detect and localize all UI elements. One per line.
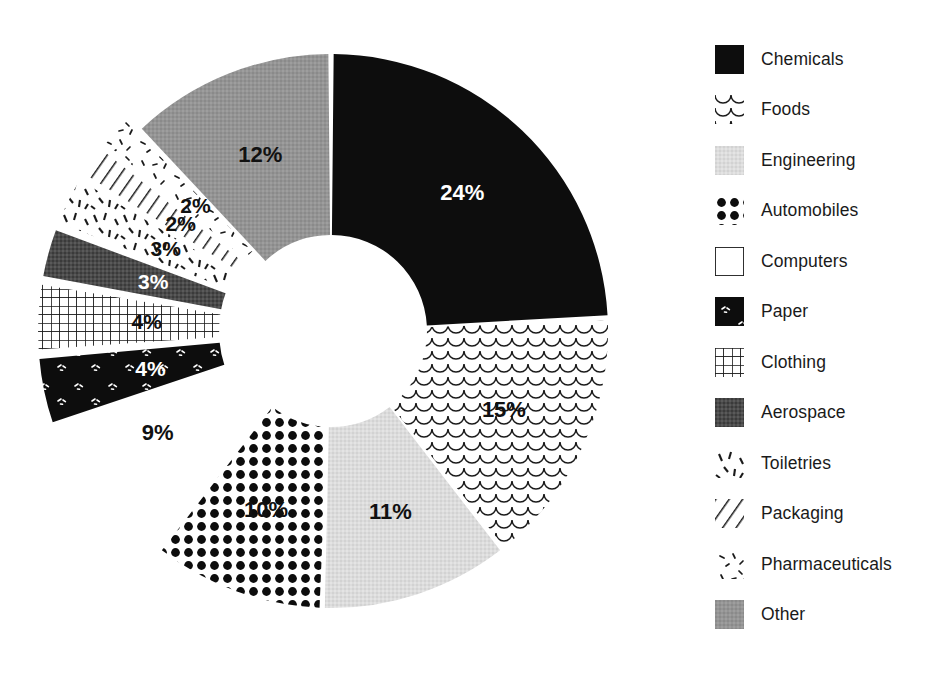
donut-chart: 24%15%11%10%9%4%4%3%3%2%2%12% [0, 0, 680, 681]
legend-item-paper[interactable]: Paper [705, 287, 927, 338]
legend-item-chemicals[interactable]: Chemicals [705, 34, 927, 85]
dots-swatch-icon [715, 196, 744, 225]
donut-chart-svg: 24%15%11%10%9%4%4%3%3%2%2%12% [0, 0, 680, 681]
legend-item-pharmaceuticals[interactable]: Pharmaceuticals [705, 539, 927, 590]
legend-item-label: Packaging [761, 503, 844, 524]
slice-label-computers: 9% [142, 420, 174, 445]
dark-gray-swatch-icon [715, 398, 744, 427]
legend-item-computers[interactable]: Computers [705, 236, 927, 287]
legend-item-label: Aerospace [761, 402, 846, 423]
black-flecks-swatch-icon [715, 297, 744, 326]
slice-label-toiletries: 3% [151, 237, 182, 260]
legend-item-label: Foods [761, 99, 810, 120]
dashes-swatch-icon [715, 449, 744, 478]
slice-label-automobiles: 10% [244, 497, 288, 522]
chart-page: 24%15%11%10%9%4%4%3%3%2%2%12% [0, 0, 930, 681]
legend-item-label: Pharmaceuticals [761, 554, 892, 575]
grid-swatch-icon [715, 348, 744, 377]
legend-item-label: Clothing [761, 352, 826, 373]
solid-black-swatch-icon [715, 45, 744, 74]
white-outline-swatch-icon [715, 247, 744, 276]
legend-item-label: Paper [761, 301, 808, 322]
legend-item-clothing[interactable]: Clothing [705, 337, 927, 388]
donut-slices [38, 54, 608, 608]
light-gray-swatch-icon [715, 146, 744, 175]
legend-item-label: Chemicals [761, 49, 844, 70]
speckles-swatch-icon [715, 550, 744, 579]
legend-item-label: Other [761, 604, 805, 625]
legend-item-label: Engineering [761, 150, 856, 171]
slice-label-clothing: 4% [132, 310, 163, 333]
legend-item-label: Toiletries [761, 453, 831, 474]
slice-label-paper: 4% [135, 357, 166, 380]
legend-item-toiletries[interactable]: Toiletries [705, 438, 927, 489]
slice-label-foods: 15% [482, 397, 526, 422]
legend-item-other[interactable]: Other [705, 590, 927, 641]
legend-item-aerospace[interactable]: Aerospace [705, 388, 927, 439]
legend-item-automobiles[interactable]: Automobiles [705, 186, 927, 237]
diagonal-hatch-swatch-icon [715, 499, 744, 528]
slice-label-other: 12% [238, 142, 282, 167]
medium-gray-swatch-icon [715, 600, 744, 629]
legend-item-packaging[interactable]: Packaging [705, 489, 927, 540]
slice-label-pharmaceuticals: 2% [180, 194, 211, 217]
slice-label-engineering: 11% [369, 499, 412, 524]
legend-item-label: Automobiles [761, 200, 858, 221]
slice-label-aerospace: 3% [138, 270, 169, 293]
slice-label-chemicals: 24% [440, 180, 484, 205]
fish-scale-swatch-icon [715, 95, 744, 124]
legend-item-foods[interactable]: Foods [705, 85, 927, 136]
legend-item-label: Computers [761, 251, 848, 272]
chart-legend: Chemicals [705, 34, 927, 640]
legend-item-engineering[interactable]: Engineering [705, 135, 927, 186]
